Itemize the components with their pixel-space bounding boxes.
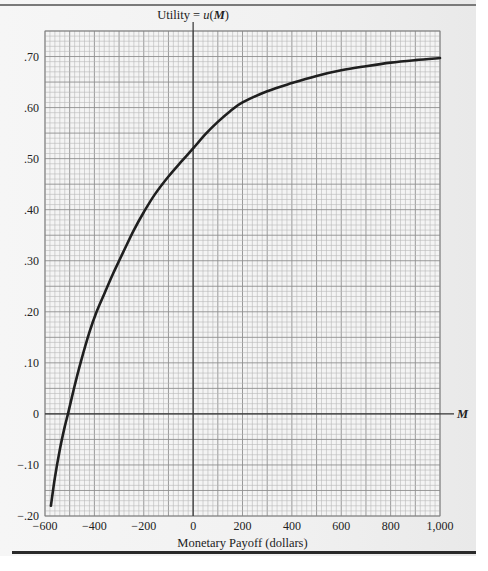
y-tick-label: .10 [24, 356, 39, 370]
x-tick-label: 200 [234, 519, 252, 533]
y-axis-title: Utility = u(M) [157, 8, 229, 22]
x-axis-symbol: M [456, 407, 469, 421]
y-tick-label: −.10 [17, 458, 39, 472]
y-tick-label: .20 [24, 305, 39, 319]
y-tick-label: .60 [24, 101, 39, 115]
y-tick-label: .40 [24, 203, 39, 217]
y-axis-title-close: ) [225, 8, 229, 22]
y-axis-title-var: M [213, 8, 226, 22]
y-axis-title-prefix: Utility = [157, 8, 203, 22]
x-tick-labels: −600−400−20002004006008001,000 [33, 519, 454, 533]
x-tick-label: −400 [82, 519, 107, 533]
x-tick-label: 1,000 [427, 519, 454, 533]
x-tick-label: 800 [382, 519, 400, 533]
x-axis-title: Monetary Payoff (dollars) [177, 536, 307, 550]
x-tick-label: −200 [131, 519, 156, 533]
y-tick-labels: −.20−.100.10.20.30.40.50.60.70 [17, 50, 39, 523]
utility-chart: −600−400−20002004006008001,000 −.20−.100… [0, 0, 488, 571]
y-tick-label: 0 [33, 407, 39, 421]
x-tick-label: 400 [283, 519, 301, 533]
y-tick-label: .30 [24, 254, 39, 268]
x-tick-label: 0 [190, 519, 196, 533]
y-tick-label: −.20 [17, 509, 39, 523]
y-tick-label: .50 [24, 152, 39, 166]
y-tick-label: .70 [24, 50, 39, 64]
x-tick-label: 600 [332, 519, 350, 533]
